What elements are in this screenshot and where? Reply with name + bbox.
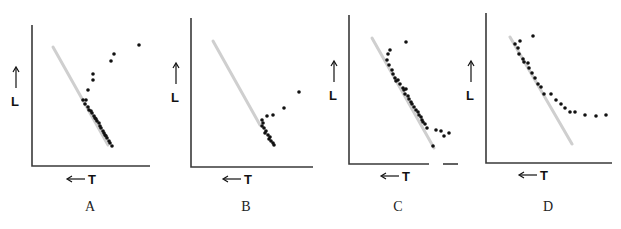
data-point xyxy=(518,39,522,43)
axes xyxy=(32,25,150,166)
data-point xyxy=(91,72,95,76)
panel-caption-c: C xyxy=(383,199,413,215)
data-point xyxy=(536,82,540,86)
data-point xyxy=(271,113,275,117)
data-point xyxy=(568,110,572,114)
data-point xyxy=(526,61,530,65)
data-point xyxy=(386,52,390,56)
data-point xyxy=(539,85,543,89)
data-point xyxy=(83,102,87,106)
data-point xyxy=(442,134,446,138)
data-point xyxy=(517,52,521,56)
panel-caption-a: A xyxy=(75,199,105,215)
data-point xyxy=(554,98,558,102)
data-point xyxy=(594,114,598,118)
axes xyxy=(191,18,313,167)
data-point xyxy=(425,126,429,130)
data-point xyxy=(530,71,534,75)
data-point xyxy=(84,98,88,102)
data-point xyxy=(94,117,98,121)
data-point xyxy=(447,131,451,135)
data-point xyxy=(423,122,427,126)
y-axis-label: L xyxy=(11,94,19,109)
data-point xyxy=(398,82,402,86)
data-point xyxy=(272,143,276,147)
data-point xyxy=(583,113,587,117)
data-point xyxy=(109,59,113,63)
data-point xyxy=(542,92,546,96)
panel-caption-b: B xyxy=(231,199,261,215)
data-point xyxy=(604,113,608,117)
panel-b: LT xyxy=(171,18,313,187)
data-point xyxy=(396,78,400,82)
x-axis-label: T xyxy=(244,172,252,187)
data-point xyxy=(89,109,93,113)
data-point xyxy=(91,78,95,82)
reference-line xyxy=(372,38,434,148)
data-point xyxy=(388,48,392,52)
data-point xyxy=(513,42,517,46)
data-point xyxy=(431,144,435,148)
data-point xyxy=(516,46,520,50)
data-point xyxy=(404,87,408,91)
reference-line xyxy=(213,41,260,125)
data-point xyxy=(531,34,535,38)
data-point xyxy=(391,72,395,76)
data-point xyxy=(390,68,394,72)
y-axis-label: L xyxy=(466,88,474,103)
data-point xyxy=(404,40,408,44)
reference-line xyxy=(53,47,108,145)
data-point xyxy=(137,43,141,47)
data-point xyxy=(522,60,526,64)
data-point xyxy=(110,144,114,148)
x-axis-label: T xyxy=(88,172,96,187)
figure-canvas: LTLTLTLT xyxy=(0,0,621,229)
data-point xyxy=(403,92,407,96)
data-point xyxy=(297,90,301,94)
panel-a: LT xyxy=(11,25,150,187)
data-point xyxy=(86,88,90,92)
data-point xyxy=(407,97,411,101)
data-point xyxy=(265,114,269,118)
x-axis-label: T xyxy=(540,168,548,183)
data-point xyxy=(262,126,266,130)
data-point xyxy=(549,92,553,96)
data-point xyxy=(99,126,103,130)
axes xyxy=(349,15,429,164)
panel-caption-d: D xyxy=(533,199,563,215)
data-point xyxy=(385,58,389,62)
data-point xyxy=(263,131,267,135)
data-point xyxy=(439,129,443,133)
data-point xyxy=(104,134,108,138)
data-point xyxy=(527,66,531,70)
axes xyxy=(486,13,612,163)
data-point xyxy=(573,110,577,114)
panel-d: LT xyxy=(466,13,612,183)
data-point xyxy=(282,106,286,110)
data-point xyxy=(559,102,563,106)
data-point xyxy=(434,128,438,132)
data-point xyxy=(387,63,391,67)
panel-c: LT xyxy=(329,15,458,184)
y-axis-label: L xyxy=(171,90,179,105)
x-axis-label: T xyxy=(402,169,410,184)
data-point xyxy=(112,52,116,56)
data-point xyxy=(108,141,112,145)
data-point xyxy=(412,105,416,109)
data-point xyxy=(533,76,537,80)
data-point xyxy=(410,102,414,106)
data-point xyxy=(563,106,567,110)
y-axis-label: L xyxy=(329,88,337,103)
